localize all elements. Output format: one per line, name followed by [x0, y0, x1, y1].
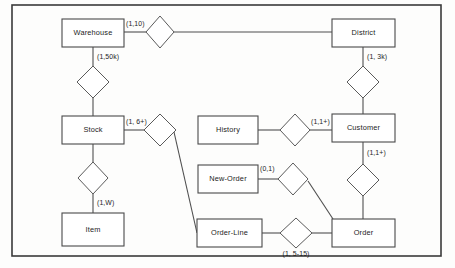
- relationship-diamond-stock-item: [78, 162, 108, 194]
- card-stock-orderline: (1, 6+): [126, 118, 147, 126]
- relationship-diamond-warehouse-district: [146, 16, 174, 48]
- card-warehouse-stock: (1,50k): [97, 53, 119, 61]
- entity-warehouse: Warehouse: [62, 19, 124, 47]
- entity-label-stock: Stock: [83, 125, 102, 134]
- entity-label-order: Order: [354, 228, 374, 237]
- entity-order: Order: [332, 219, 395, 247]
- entity-label-orderline: Order-Line: [211, 228, 248, 237]
- relationship-diamond-neworder-order: [278, 163, 308, 195]
- relationship-diamond-district-customer: [347, 66, 379, 98]
- entity-stock: Stock: [62, 116, 124, 144]
- entity-district: District: [332, 19, 395, 47]
- card-district-customer: (1, 3k): [367, 53, 387, 61]
- card-customer-order: (1,1+): [367, 149, 386, 157]
- relationship-diamond-warehouse-stock: [77, 66, 109, 98]
- entity-label-warehouse: Warehouse: [74, 28, 113, 37]
- card-history-customer: (1,1+): [311, 118, 330, 126]
- no-diamond-to-order: [308, 181, 333, 219]
- entity-item: Item: [62, 213, 124, 246]
- entity-label-history: History: [216, 125, 240, 134]
- er-diagram-container: WarehouseDistrictStockItemHistoryCustome…: [0, 0, 455, 268]
- entity-history: History: [198, 116, 258, 144]
- er-diagram-canvas: WarehouseDistrictStockItemHistoryCustome…: [0, 0, 455, 268]
- card-stock-item: (1,W): [97, 199, 114, 207]
- so-diamond-to-orderline: [174, 132, 197, 233]
- entity-label-district: District: [352, 28, 376, 37]
- relationship-diamond-orderline-order: [280, 218, 312, 248]
- entity-label-neworder: New-Order: [209, 174, 247, 183]
- entity-customer: Customer: [332, 114, 395, 142]
- card-orderline-order: (1, 5-15): [283, 250, 310, 258]
- relationship-diamond-stock-orderline: [144, 114, 176, 146]
- relationship-diamond-customer-order: [347, 164, 379, 196]
- relationship-diamond-history-customer: [280, 114, 310, 146]
- entity-orderline: Order-Line: [197, 219, 262, 247]
- card-warehouse-district: (1,10): [126, 20, 145, 28]
- entity-label-customer: Customer: [347, 123, 381, 132]
- entity-neworder: New-Order: [198, 165, 258, 193]
- card-neworder-order: (0,1): [260, 165, 275, 173]
- entity-label-item: Item: [86, 225, 101, 234]
